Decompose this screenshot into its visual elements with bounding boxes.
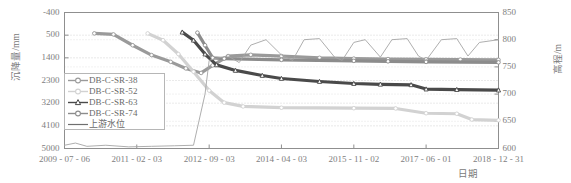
data-marker <box>352 106 356 110</box>
x-tick-label: 2009 - 07 - 06 <box>25 154 105 164</box>
data-marker <box>386 60 390 64</box>
data-marker <box>241 105 245 109</box>
data-marker <box>180 30 184 34</box>
legend-item: DB-C-SR-74 <box>67 108 164 119</box>
data-marker <box>169 60 173 64</box>
data-marker <box>112 33 116 37</box>
y-tick-label-left: 3200 <box>20 97 60 107</box>
data-marker <box>394 107 398 111</box>
legend-label-sr-63: DB-C-SR-63 <box>89 97 138 108</box>
data-marker <box>497 118 501 122</box>
y-tick-label-left: 2300 <box>20 75 60 85</box>
data-marker <box>280 106 284 110</box>
y-tick-label-right: 650 <box>503 115 543 125</box>
data-marker <box>352 59 356 63</box>
y-tick-label-right: 800 <box>503 34 543 44</box>
legend-swatch-sr-38 <box>67 75 89 86</box>
legend-item: DB-C-SR-38 <box>67 75 164 86</box>
data-marker <box>203 43 207 47</box>
data-marker <box>455 112 459 116</box>
data-marker <box>424 111 428 115</box>
y-tick-label-left: 4100 <box>20 120 60 130</box>
y-tick-label-left: 500 <box>20 29 60 39</box>
data-marker <box>207 89 211 93</box>
data-marker <box>93 32 97 36</box>
legend-item: DB-C-SR-52 <box>67 86 164 97</box>
y-tick-label-right: 600 <box>503 143 543 153</box>
data-marker <box>184 67 188 71</box>
x-tick-label: 2012 - 09 - 03 <box>169 154 249 164</box>
data-marker <box>192 70 196 74</box>
legend-label-sr-74: DB-C-SR-74 <box>89 108 138 119</box>
data-marker <box>249 53 253 57</box>
x-tick-label: 2011 - 02 - 03 <box>97 154 177 164</box>
chart-legend: DB-C-SR-38 DB-C-SR-52 DB-C-SR-63 <box>64 73 165 130</box>
legend-label-water-level: 上游水位 <box>89 119 125 130</box>
legend-swatch-sr-63 <box>67 97 89 108</box>
data-marker <box>470 118 474 122</box>
legend-label-sr-38: DB-C-SR-38 <box>89 75 138 86</box>
data-marker <box>222 101 226 105</box>
y-tick-label-left: -400 <box>20 7 60 17</box>
legend-item: 上游水位 <box>67 119 164 130</box>
y-tick-label-right: 750 <box>503 61 543 71</box>
x-tick-label: 2015 - 11 - 02 <box>314 154 394 164</box>
y-tick-label-left: 1400 <box>20 52 60 62</box>
data-marker <box>196 31 200 35</box>
data-marker <box>131 43 135 47</box>
data-marker <box>280 58 284 62</box>
legend-label-sr-52: DB-C-SR-52 <box>89 86 138 97</box>
x-tick-label: 2014 - 04 - 03 <box>241 154 321 164</box>
data-marker <box>497 61 501 65</box>
settlement-elevation-chart: 沉降量/mm 高程/m 日期 -400500140023003200410050… <box>0 0 571 183</box>
legend-swatch-water-level <box>67 119 89 130</box>
legend-swatch-sr-74 <box>67 108 89 119</box>
x-tick-label: 2017 - 06 - 01 <box>386 154 466 164</box>
legend-item: DB-C-SR-63 <box>67 97 164 108</box>
y-tick-label-right: 700 <box>503 88 543 98</box>
y-tick-label-right: 850 <box>503 7 543 17</box>
data-marker <box>146 32 150 36</box>
data-marker <box>161 38 165 42</box>
data-marker <box>177 52 181 56</box>
data-marker <box>150 53 154 57</box>
y-tick-label-left: 5000 <box>20 143 60 153</box>
x-tick-label: 2018 - 12 - 31 <box>459 154 539 164</box>
legend-swatch-sr-52 <box>67 86 89 97</box>
data-marker <box>199 71 203 75</box>
